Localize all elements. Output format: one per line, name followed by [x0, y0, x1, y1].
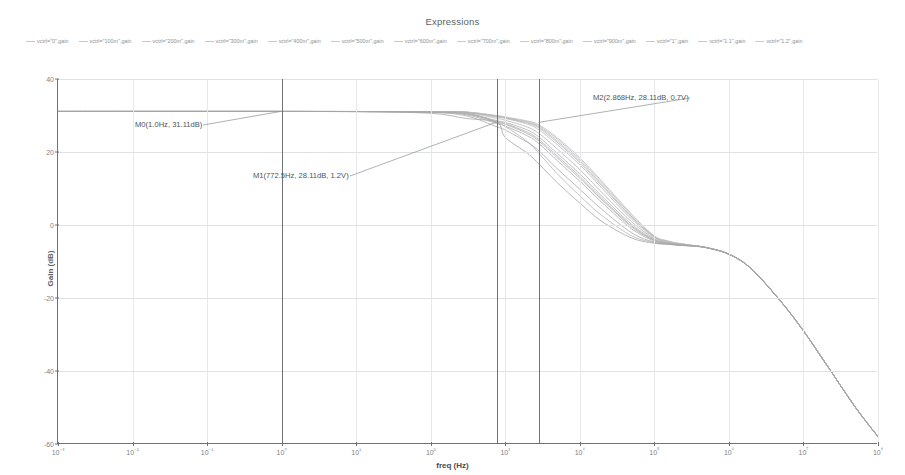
chart-canvas: Expressions vctrl="0",gainvctrl="100m",g… — [0, 0, 905, 475]
marker-annotation-m1[interactable]: M1(772.5Hz, 28.11dB, 1.2V) — [253, 171, 349, 180]
annotation-leader-lines — [0, 0, 905, 475]
marker-annotation-m2[interactable]: M2(2.868Hz, 28.11dB, 0.7V) — [593, 93, 689, 102]
leader-line — [350, 122, 496, 176]
marker-annotation-m0[interactable]: M0(1.0Hz, 31.11dB) — [135, 120, 202, 129]
leader-line — [203, 111, 281, 125]
